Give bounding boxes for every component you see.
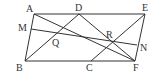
point-label-a: A [26,3,34,14]
point-labels: ADEMQRNBCF [16,2,148,73]
geometry-figure: ADEMQRNBCF [0,0,162,82]
point-label-q: Q [52,37,60,48]
point-label-m: M [18,22,27,33]
point-label-b: B [16,62,23,73]
point-label-r: R [106,29,113,40]
point-label-n: N [140,42,147,53]
point-label-f: F [133,62,139,73]
segments [25,14,145,61]
point-label-e: E [142,2,148,13]
point-label-d: D [75,2,82,13]
point-label-c: C [86,62,93,73]
